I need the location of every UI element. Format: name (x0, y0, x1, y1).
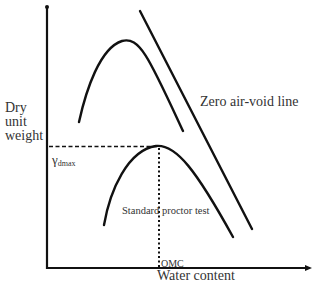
y-axis-label-line-3: weight (5, 129, 43, 143)
upper-compaction-curve (79, 40, 183, 131)
x-axis-arrow-icon (305, 265, 312, 271)
standard-proctor-curve (104, 146, 233, 237)
standard-proctor-label: Standard proctor test (122, 205, 209, 216)
y-axis-label-line-1: Dry (5, 101, 43, 115)
compaction-diagram (0, 0, 312, 284)
y-axis-label-line-2: unit (5, 115, 43, 129)
y-axis-label: Dry unit weight (5, 101, 43, 143)
x-axis-label: Water content (157, 268, 235, 284)
gamma-dmax-label: γdmax (52, 152, 76, 168)
gamma-subscript: dmax (58, 159, 76, 168)
y-axis-arrow-tip (45, 5, 49, 9)
zero-air-void-label: Zero air-void line (200, 94, 298, 110)
zero-air-void-line (140, 11, 252, 229)
